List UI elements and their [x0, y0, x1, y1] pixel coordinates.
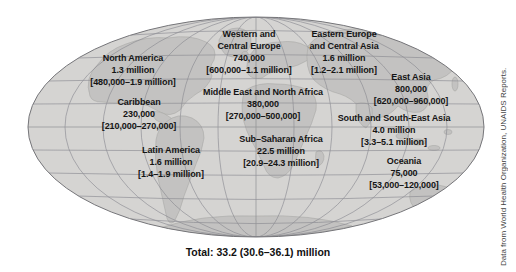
region-value: 800,000 — [374, 83, 448, 95]
region-range: [1.4–1.9 million] — [138, 168, 204, 180]
landmass-new-zealand — [467, 203, 473, 213]
region-range: [1.2–2.1 million] — [309, 64, 378, 76]
landmass-japan — [452, 77, 458, 91]
region-name: North America — [90, 52, 175, 64]
region-value: 1.6 million — [138, 156, 204, 168]
region-name: East Asia — [374, 71, 448, 83]
region-name: Latin America — [138, 144, 204, 156]
total-label: Total: 33.2 (30.6–36.1) million — [186, 246, 331, 258]
region-label-western-central-europe: Western and Central Europe 740,000 [600,… — [206, 28, 291, 76]
region-value: 380,000 — [203, 98, 323, 110]
region-label-caribbean: Caribbean 230,000 [210,000–270,000] — [102, 96, 176, 132]
region-label-latin-america: Latin America 1.6 million [1.4–1.9 milli… — [138, 144, 204, 180]
region-name: Western and — [206, 28, 291, 40]
region-name: Eastern Europe — [309, 28, 378, 40]
region-name: Oceania — [369, 155, 438, 167]
region-label-north-america: North America 1.3 million [480,000–1.9 m… — [90, 52, 175, 88]
region-range: [3.3–5.1 million] — [338, 136, 451, 148]
region-range: [210,000–270,000] — [102, 120, 176, 132]
region-range: [20.9–24.3 million] — [239, 157, 322, 169]
region-name: Caribbean — [102, 96, 176, 108]
region-label-east-asia: East Asia 800,000 [620,000–960,000] — [374, 71, 448, 107]
region-label-middle-east-north-africa: Middle East and North Africa 380,000 [27… — [203, 86, 323, 122]
region-value: 75,000 — [369, 167, 438, 179]
region-value: 1.6 million — [309, 52, 378, 64]
region-range: [480,000–1.9 million] — [90, 76, 175, 88]
region-value: 22.5 million — [239, 145, 322, 157]
region-name: and Central Asia — [309, 40, 378, 52]
region-label-sub-saharan-africa: Sub–Saharan Africa 22.5 million [20.9–24… — [239, 133, 322, 169]
region-name: Central Europe — [206, 40, 291, 52]
region-value: 230,000 — [102, 108, 176, 120]
region-label-eastern-europe-central-asia: Eastern Europe and Central Asia 1.6 mill… — [309, 28, 378, 76]
region-range: [600,000–1.1 million] — [206, 64, 291, 76]
region-value: 4.0 million — [338, 124, 451, 136]
region-range: [270,000–500,000] — [203, 110, 323, 122]
data-source-credit: Data from World Health Organization, UNA… — [499, 30, 508, 266]
region-value: 740,000 — [206, 52, 291, 64]
region-range: [53,000–120,000] — [369, 179, 438, 191]
region-value: 1.3 million — [90, 64, 175, 76]
region-label-oceania: Oceania 75,000 [53,000–120,000] — [369, 155, 438, 191]
region-name: South and South-East Asia — [338, 112, 451, 124]
region-range: [620,000–960,000] — [374, 95, 448, 107]
world-hiv-prevalence-figure: North America 1.3 million [480,000–1.9 m… — [0, 0, 516, 272]
region-label-south-south-east-asia: South and South-East Asia 4.0 million [3… — [338, 112, 451, 148]
region-name: Sub–Saharan Africa — [239, 133, 322, 145]
region-name: Middle East and North Africa — [203, 86, 323, 98]
